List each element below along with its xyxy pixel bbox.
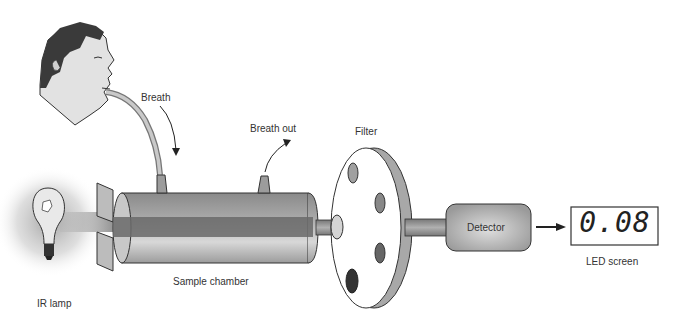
- shutter-plate-top: [97, 183, 113, 222]
- label-breath-out: Breath out: [250, 123, 296, 134]
- label-led-screen: LED screen: [586, 256, 638, 267]
- filter-wheel: [331, 148, 412, 308]
- person-head: [40, 22, 114, 125]
- label-breath: Breath: [141, 92, 170, 103]
- breath-analyzer-diagram: [0, 0, 680, 331]
- breath-out-arrow-icon: [265, 143, 286, 172]
- label-sample-chamber: Sample chamber: [173, 276, 249, 287]
- label-detector: Detector: [467, 222, 505, 233]
- sample-chamber: [113, 175, 318, 263]
- breath-arrow-icon: [160, 106, 176, 150]
- label-ir-lamp: IR lamp: [37, 298, 71, 309]
- shutter-plate-bottom: [97, 232, 113, 271]
- arrow-to-led-icon: [556, 223, 566, 231]
- led-reading: 0.08: [576, 208, 654, 238]
- label-filter: Filter: [355, 126, 377, 137]
